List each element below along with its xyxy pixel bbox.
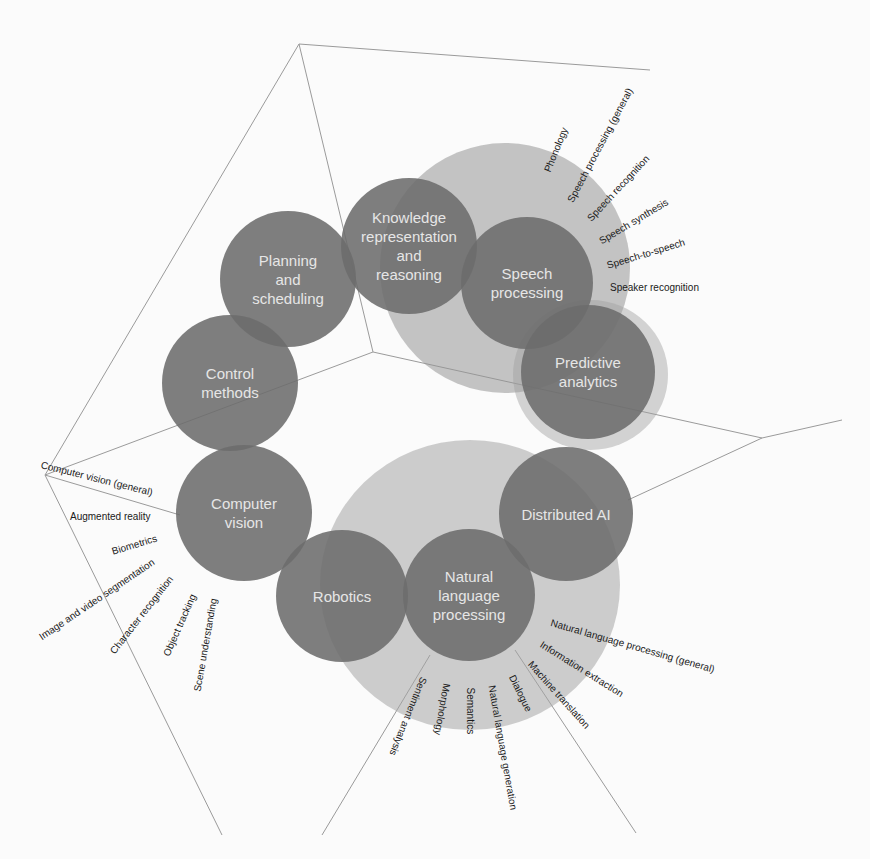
edge-top bbox=[299, 44, 650, 70]
circle-label-line: reasoning bbox=[355, 265, 463, 284]
speech-subfield-label: Speaker recognition bbox=[610, 282, 699, 293]
circle-label-line: representation bbox=[355, 227, 463, 246]
circle-label-line: Planning bbox=[246, 251, 330, 270]
circle-knowledge-representation: Knowledge representation and reasoning bbox=[341, 178, 477, 314]
circle-label-line: and bbox=[246, 270, 330, 289]
circle-label-line: Control bbox=[195, 364, 265, 383]
edge-right-up bbox=[762, 420, 842, 438]
circle-label-line: processing bbox=[485, 283, 570, 302]
circle-label-line: language bbox=[427, 586, 512, 605]
circle-label-line: Distributed AI bbox=[515, 505, 616, 524]
circle-label-line: analytics bbox=[549, 372, 627, 391]
circle-label-line: and bbox=[355, 246, 463, 265]
circle-label-line: Robotics bbox=[307, 587, 377, 606]
circle-label-line: methods bbox=[195, 383, 265, 402]
vision-subfield-label: Augmented reality bbox=[70, 511, 151, 522]
circle-natural-language-processing: Natural language processing bbox=[403, 529, 535, 661]
circle-robotics: Robotics bbox=[276, 530, 408, 662]
circle-label-line: scheduling bbox=[246, 289, 330, 308]
circle-label-line: processing bbox=[427, 605, 512, 624]
circle-label-line: Computer bbox=[205, 494, 283, 513]
diagram-canvas: Knowledge representation and reasoning P… bbox=[0, 0, 870, 859]
circle-label-line: Predictive bbox=[549, 353, 627, 372]
circle-label-line: Speech bbox=[485, 264, 570, 283]
circle-predictive-analytics: Predictive analytics bbox=[521, 305, 655, 439]
circle-label-line: Knowledge bbox=[355, 208, 463, 227]
circle-control-methods: Control methods bbox=[162, 315, 298, 451]
circle-label-line: Natural bbox=[427, 567, 512, 586]
nlp-subfield-label: Semantics bbox=[465, 688, 476, 735]
edge-right-down bbox=[628, 438, 762, 500]
circle-label-line: vision bbox=[205, 513, 283, 532]
